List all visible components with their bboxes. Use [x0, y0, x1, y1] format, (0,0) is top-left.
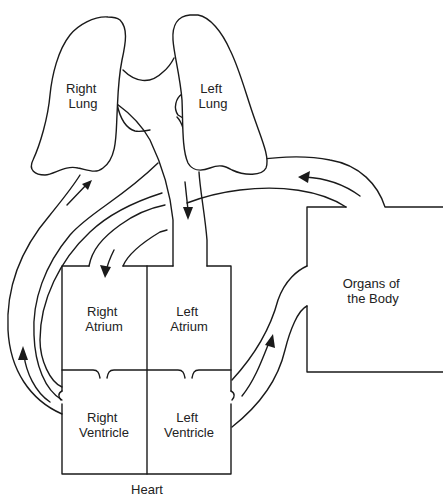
pulmonary-vein [199, 172, 207, 266]
arrow-left-icon [298, 171, 310, 183]
right-atrium-label: Right Atrium [85, 304, 123, 334]
right-lung-label: Right Lung [66, 81, 100, 111]
arrow-down-atrium-icon [100, 265, 111, 278]
left-ventricle-label: Left Ventricle [164, 410, 214, 440]
vena-cava [40, 193, 167, 387]
arrow-down-icon [183, 207, 193, 220]
heart-label: Heart [131, 482, 163, 497]
left-atrium-label: Left Atrium [170, 304, 208, 334]
right-ventricle-label: Right Ventricle [79, 410, 129, 440]
circulation-diagram: Right Lung Left Lung Right Atrium Left A… [0, 0, 443, 498]
bronchi [117, 58, 183, 266]
arrow-up-left-icon [18, 346, 28, 360]
left-lung-label: Left Lung [199, 81, 228, 111]
heart-box [59, 266, 234, 474]
organs-box [187, 157, 443, 427]
organs-label: Organs of the Body [343, 276, 404, 306]
arrow-up-body-icon [265, 334, 275, 348]
flow-arrows [18, 171, 360, 402]
